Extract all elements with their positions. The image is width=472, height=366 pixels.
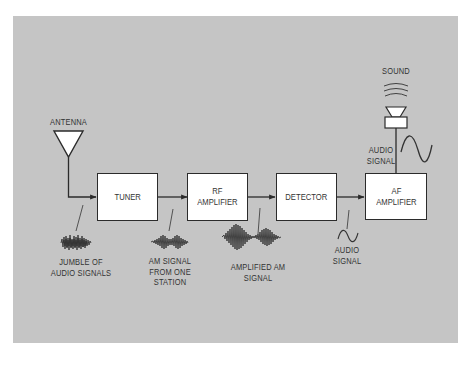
pointer-amplified [258,208,260,234]
block-detector: DETECTOR [276,173,337,221]
signal-jumble-label: JUMBLE OF AUDIO SIGNALS [50,257,112,278]
block-tuner-label: TUNER [114,192,140,203]
block-tuner: TUNER [97,173,158,221]
block-rf-amplifier: RF AMPLIFIER [187,173,248,221]
pointer-audio [347,210,349,229]
block-af-amplifier-label: AF AMPLIFIER [376,186,416,208]
block-af-amplifier: AF AMPLIFIER [365,173,427,220]
speaker-icon [385,107,407,128]
am-wave-small-icon [151,235,188,249]
am-wave-large-icon [222,224,281,250]
antenna-triangle-icon [54,131,83,157]
block-rf-amplifier-label: RF AMPLIFIER [197,186,237,208]
pointer-am-one [169,209,173,231]
antenna-to-tuner-line [69,157,97,197]
pointer-jumble [76,205,83,231]
output-audio-signal-label: AUDIO SIGNAL [366,145,396,166]
signal-am-one-station-label: AM SIGNAL FROM ONE STATION [144,256,197,288]
signal-amplified-am-label: AMPLIFIED AM SIGNAL [223,262,293,283]
sine-wave-small-icon [338,230,358,241]
noise-burst-icon [61,235,91,250]
sound-waves-icon [384,84,408,97]
block-detector-label: DETECTOR [286,192,328,203]
sine-wave-large-icon [401,136,432,162]
sound-label: SOUND [380,66,412,77]
signal-audio-label: AUDIO SIGNAL [327,245,367,266]
antenna-label: ANTENNA [49,117,89,128]
